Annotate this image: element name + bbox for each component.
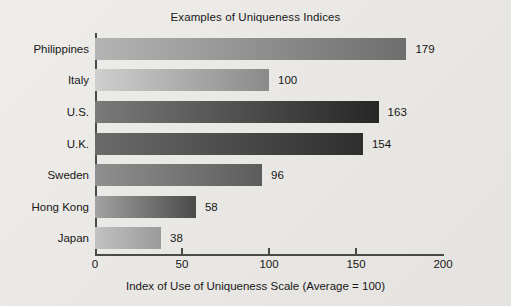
category-label-japan: Japan	[1, 232, 89, 244]
bar-u-k[interactable]	[95, 133, 363, 155]
category-label-sweden: Sweden	[1, 169, 89, 181]
bar-value-label: 38	[170, 232, 183, 244]
bar-value-label: 163	[388, 106, 407, 118]
x-tick-mark	[181, 248, 183, 254]
bar-row: 96	[95, 164, 443, 186]
bar-row: 154	[95, 133, 443, 155]
x-axis-title: Index of Use of Uniqueness Scale (Averag…	[0, 280, 511, 292]
plot-area: 179100163154965838	[95, 33, 443, 254]
x-tick-label: 150	[346, 258, 365, 270]
bar-u-s[interactable]	[95, 101, 379, 123]
bar-row: 163	[95, 101, 443, 123]
category-label-philippines: Philippines	[1, 43, 89, 55]
x-tick-label: 0	[92, 258, 98, 270]
x-tick-label: 100	[259, 258, 278, 270]
bar-row: 38	[95, 227, 443, 249]
bar-value-label: 58	[205, 201, 218, 213]
category-label-u-k: U.K.	[1, 138, 89, 150]
x-tick-label: 50	[176, 258, 189, 270]
bar-row: 179	[95, 38, 443, 60]
chart-figure: Examples of Uniqueness Indices Philippin…	[0, 0, 511, 306]
category-label-hong-kong: Hong Kong	[1, 201, 89, 213]
bar-sweden[interactable]	[95, 164, 262, 186]
x-tick-mark	[355, 248, 357, 254]
bar-row: 100	[95, 69, 443, 91]
bar-philippines[interactable]	[95, 38, 406, 60]
x-axis-line	[95, 254, 444, 256]
bar-italy[interactable]	[95, 69, 269, 91]
bar-value-label: 96	[271, 169, 284, 181]
chart-title: Examples of Uniqueness Indices	[0, 11, 511, 23]
y-axis-category-labels: PhilippinesItalyU.S.U.K.SwedenHong KongJ…	[0, 33, 89, 254]
x-tick-label: 200	[433, 258, 452, 270]
category-label-italy: Italy	[1, 74, 89, 86]
x-tick-mark	[268, 248, 270, 254]
bar-value-label: 154	[372, 138, 391, 150]
bar-row: 58	[95, 196, 443, 218]
bar-value-label: 100	[278, 74, 297, 86]
bar-value-label: 179	[415, 43, 434, 55]
category-label-u-s: U.S.	[1, 106, 89, 118]
bar-hong-kong[interactable]	[95, 196, 196, 218]
bar-japan[interactable]	[95, 227, 161, 249]
